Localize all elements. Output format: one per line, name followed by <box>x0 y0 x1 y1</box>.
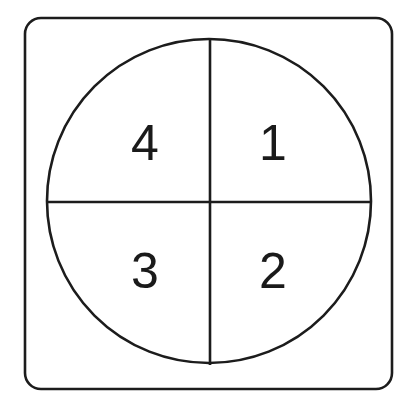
quadrant-label-4: 4 <box>131 115 159 171</box>
rounded-square-frame <box>25 18 392 389</box>
diagram-canvas: 4 1 3 2 <box>0 0 418 414</box>
quadrant-label-2: 2 <box>259 243 287 299</box>
quadrant-label-1: 1 <box>259 115 287 171</box>
quadrant-circle-diagram: 4 1 3 2 <box>0 0 418 414</box>
quadrant-label-3: 3 <box>131 243 159 299</box>
